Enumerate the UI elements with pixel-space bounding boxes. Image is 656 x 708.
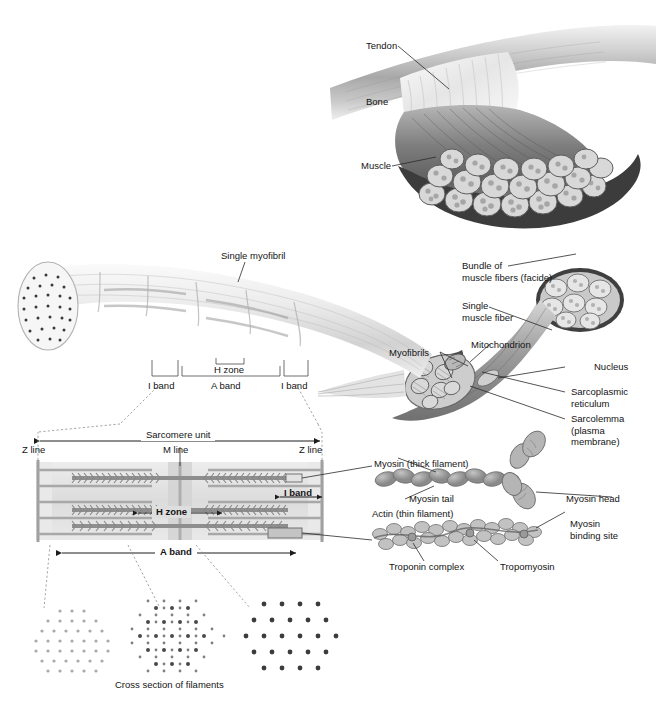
muscle-anatomy-figure: Tendon Bone Muscle Bundle of muscle fibe… xyxy=(0,0,656,708)
label-bone: Bone xyxy=(366,96,388,108)
label-z-line-left: Z line xyxy=(22,444,45,456)
cross-section-overlap xyxy=(131,600,226,673)
actin-callout-box xyxy=(268,528,302,538)
label-myosin-thick-filament: Myosin (thick filament) xyxy=(374,458,469,470)
cross-section-h-zone xyxy=(244,602,339,671)
label-z-line-right: Z line xyxy=(299,444,322,456)
label-i-band-right-top: I band xyxy=(281,380,307,392)
label-myosin-head: Myosin head xyxy=(566,493,620,505)
label-single-muscle-fiber: Single muscle fiber xyxy=(462,300,513,323)
label-tropomyosin: Tropomyosin xyxy=(500,561,555,573)
myosin-heads xyxy=(498,427,550,513)
label-sarcoplasmic-reticulum: Sarcoplasmic reticulum xyxy=(571,386,628,409)
myosin-callout-box xyxy=(286,474,302,482)
label-h-zone-top: H zone xyxy=(214,364,244,376)
myofibril-taper-to-left xyxy=(318,370,406,398)
label-myosin-tail: Myosin tail xyxy=(409,493,454,505)
label-h-zone-sarcomere: H zone xyxy=(152,506,191,518)
label-sarcomere-unit: Sarcomere unit xyxy=(141,429,215,441)
myosin-tail-coil xyxy=(374,467,507,488)
label-a-band-top: A band xyxy=(211,380,241,392)
label-bundle-of-muscle-fibers: Bundle of muscle fibers (facide) xyxy=(462,260,552,283)
label-muscle: Muscle xyxy=(361,160,391,172)
caption-cross-section-of-filaments: Cross section of filaments xyxy=(115,679,224,691)
cross-section-circles-group xyxy=(34,600,338,673)
label-actin-thin-filament: Actin (thin filament) xyxy=(372,508,453,520)
label-tendon: Tendon xyxy=(366,40,397,52)
label-sarcolemma: Sarcolemma (plasma membrane) xyxy=(571,413,624,448)
label-nucleus: Nucleus xyxy=(594,361,628,373)
bone-tendon-muscle-group xyxy=(330,25,656,228)
label-troponin-complex: Troponin complex xyxy=(389,561,464,573)
single-myofibril-cylinder-group xyxy=(18,262,432,378)
label-single-myofibril: Single myofibril xyxy=(221,250,285,262)
cross-section-i-band xyxy=(34,609,109,672)
label-myofibrils: Myofibrils xyxy=(389,347,429,359)
label-mitochondrion: Mitochondrion xyxy=(471,339,531,351)
label-i-band-sarcomere: I band xyxy=(284,487,312,499)
label-myosin-binding-site: Myosin binding site xyxy=(570,518,618,541)
label-a-band-sarcomere: A band xyxy=(155,546,197,558)
label-m-line: M line xyxy=(163,444,188,456)
label-i-band-left-top: I band xyxy=(148,380,174,392)
myofibril-cylinder-body xyxy=(48,264,432,378)
